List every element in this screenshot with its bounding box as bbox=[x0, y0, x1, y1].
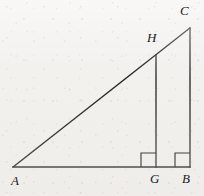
vertex-label-b: B bbox=[182, 172, 190, 185]
vertex-label-h: H bbox=[147, 31, 156, 44]
geometry-canvas bbox=[0, 0, 204, 196]
right-angle-mark-at-B bbox=[175, 153, 190, 167]
right-angle-mark-at-G bbox=[141, 153, 156, 167]
vertex-label-a: A bbox=[11, 174, 19, 187]
vertex-label-g: G bbox=[150, 172, 159, 185]
geometry-figure: A B C G H bbox=[0, 0, 204, 196]
vertex-label-c: C bbox=[180, 4, 189, 17]
segment-hypotenuse-AC bbox=[13, 28, 190, 167]
